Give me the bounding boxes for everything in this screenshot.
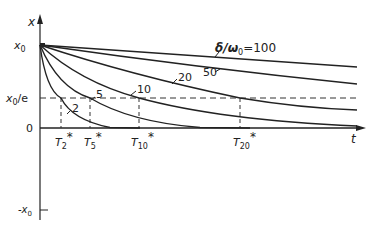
curve-10 [40,45,357,126]
y-axis-label: x [28,16,35,28]
curve-label-50: 50 [203,67,217,78]
x-tick-t20: T20* [233,131,256,151]
y-tick-zero: 0 [26,123,33,134]
x-axis-arrow-icon [356,125,366,131]
x-tick-t2: T2* [55,131,73,151]
curve-label-20: 20 [178,72,192,83]
curve-100 [40,45,357,67]
curve-label-2: 2 [72,103,79,114]
diagram-canvas [0,0,385,227]
y-tick-x0-over-e: x0/e [6,93,28,107]
x-tick-t10: T10* [131,131,154,151]
curve-label-100: δ/ω0=100 [215,42,276,57]
decay-diagram: x t x0 x0/e 0 -x0 T2* T5* T10* T20* 2 5 … [0,0,385,227]
x-axis-label: t [351,133,356,145]
x-tick-t5: T5* [84,131,102,151]
y-axis-arrow-icon [37,14,43,24]
y-tick-x0: x0 [14,40,26,54]
curve-label-10: 10 [137,84,151,95]
curve-label-5: 5 [96,89,103,100]
origin-marker [40,43,45,47]
y-tick-neg-x0: -x0 [18,205,32,218]
leader-2 [67,110,71,114]
leader-10 [131,91,136,95]
